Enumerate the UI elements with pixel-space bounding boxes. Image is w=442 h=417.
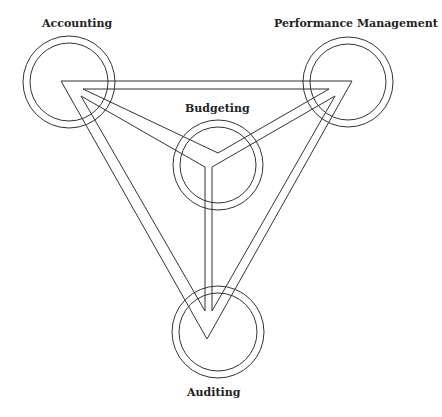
outer-triangle	[61, 81, 352, 339]
inner-edge-right	[212, 96, 335, 311]
inner-edge-left	[81, 96, 205, 311]
label-accounting: Accounting	[42, 17, 112, 30]
label-performance-management: Performance Management	[274, 17, 438, 30]
label-budgeting: Budgeting	[185, 102, 250, 115]
performance-circle	[303, 37, 393, 127]
budgeting-circle	[173, 120, 263, 210]
label-auditing: Auditing	[187, 386, 240, 399]
accounting-circle	[23, 36, 115, 128]
diagram-canvas	[0, 0, 442, 417]
